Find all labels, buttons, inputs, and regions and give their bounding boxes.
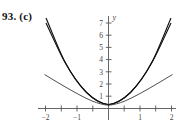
y-tick-label-7: 7: [99, 19, 103, 28]
y-tick-label-3: 3: [99, 68, 103, 77]
figure-screenshot: 93. (c) −2 −1 1: [0, 0, 179, 128]
y-tick-label-5: 5: [99, 43, 103, 52]
y-tick-label-6: 6: [99, 31, 103, 40]
x-tick-label-2: 2: [170, 113, 174, 122]
y-tick-label-2: 2: [99, 80, 103, 89]
plot-area: −2 −1 1 2 1 2 3 4 5 6 7 y: [0, 0, 179, 128]
x-tick-label-1: 1: [138, 113, 142, 122]
x-tick-label-neg2: −2: [42, 113, 50, 122]
x-tick-label-neg1: −1: [73, 113, 81, 122]
y-tick-label-4: 4: [99, 55, 103, 64]
y-tick-label-1: 1: [99, 92, 103, 101]
y-axis-label: y: [112, 13, 117, 22]
